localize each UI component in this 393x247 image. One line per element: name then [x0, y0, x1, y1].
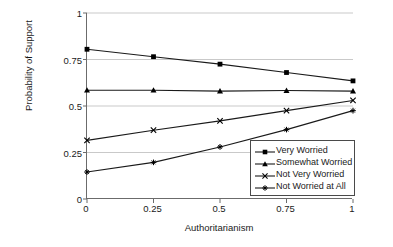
legend-item: Very Worried	[254, 144, 350, 156]
data-point-plus	[350, 108, 356, 114]
data-point-plus	[284, 127, 290, 133]
legend-label: Very Worried	[276, 144, 328, 156]
x-tick-label: 0.75	[266, 203, 306, 214]
data-point-square	[151, 54, 156, 59]
data-point-square	[351, 78, 356, 83]
legend-marker-plus-icon	[254, 180, 276, 192]
chart-container: Probability of Support 00.250.50.751 00.…	[0, 0, 393, 247]
y-tick-label: 0.25	[42, 147, 82, 158]
legend-item: Not Worried at All	[254, 180, 350, 192]
y-axis-title: Probability of Support	[23, 0, 34, 146]
data-point-plus	[84, 169, 90, 175]
y-tick-label: 0.5	[42, 101, 82, 112]
legend-item: Somewhat Worried	[254, 156, 350, 168]
data-point-square	[218, 62, 223, 67]
data-point-plus	[262, 185, 267, 190]
x-tick-label: 0.5	[199, 203, 239, 214]
legend-marker-x-icon	[254, 168, 276, 180]
legend-item: Not Very Worried	[254, 168, 350, 180]
legend-label: Not Very Worried	[276, 168, 344, 180]
legend-marker-triangle-icon	[254, 156, 276, 168]
data-point-plus	[151, 160, 157, 166]
x-tick-label: 0.25	[133, 203, 173, 214]
chart-legend: Very WorriedSomewhat WorriedNot Very Wor…	[250, 140, 355, 196]
data-point-square	[263, 150, 268, 155]
x-axis-title: Authoritarianism	[86, 222, 352, 233]
data-point-square	[85, 47, 90, 52]
legend-marker-square-icon	[254, 144, 276, 156]
data-point-plus	[217, 144, 223, 150]
legend-label: Not Worried at All	[276, 180, 346, 192]
data-point-square	[284, 70, 289, 75]
x-tick-label: 1	[332, 203, 372, 214]
x-tick-label: 0	[66, 203, 106, 214]
y-tick-label: 0.75	[42, 54, 82, 65]
y-tick-label: 1	[42, 8, 82, 19]
legend-label: Somewhat Worried	[276, 156, 352, 168]
